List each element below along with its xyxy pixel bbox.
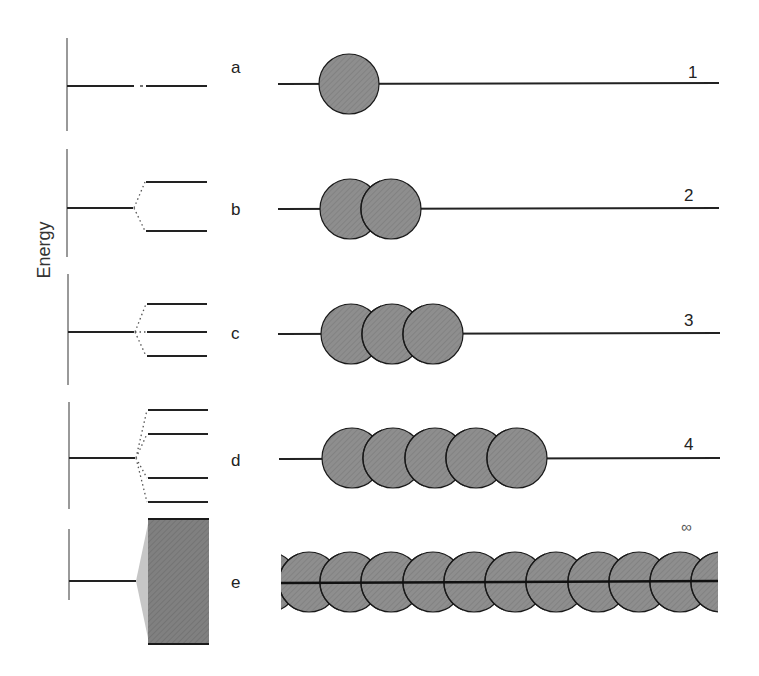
infinite-atom-chain	[238, 552, 751, 612]
energy-band-diagram: Energy a 1 b 2 c	[0, 0, 759, 676]
atom-circle	[319, 54, 379, 114]
row-a: a 1	[67, 38, 719, 131]
atom-count-3: 3	[684, 311, 693, 330]
atom-count-2: 2	[684, 186, 693, 205]
row-label-e: e	[231, 573, 240, 592]
row-label-b: b	[231, 200, 240, 219]
row-label-a: a	[231, 58, 241, 77]
atom-count-4: 4	[684, 435, 693, 454]
row-b: b 2	[67, 149, 719, 257]
atom-count-1: 1	[688, 63, 697, 82]
split-connector-c	[135, 304, 146, 356]
row-e: e ∞	[69, 518, 751, 644]
atom-count-infinity: ∞	[681, 518, 692, 535]
row-label-d: d	[231, 451, 240, 470]
energy-band	[148, 519, 209, 644]
row-d: d 4	[69, 402, 720, 509]
split-connector-b	[134, 182, 145, 231]
band-taper	[136, 519, 149, 643]
row-c: c 3	[68, 274, 720, 385]
split-connector-d	[136, 410, 147, 502]
energy-axis-label: Energy	[34, 221, 54, 278]
row-label-c: c	[231, 324, 240, 343]
